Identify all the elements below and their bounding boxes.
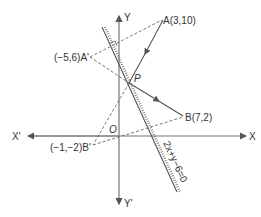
point-p-label: P	[134, 73, 141, 84]
y-neg-axis-label: Y'	[124, 198, 133, 209]
point-a-label: A(3,10)	[163, 15, 196, 26]
origin-label: O	[109, 124, 117, 135]
y-axis-label: Y	[124, 12, 131, 23]
mirror-line-equation: 2x+y−6=0	[161, 139, 190, 184]
reflection-diagram: Y Y' X X' O A(3,10) B(7,2) P (−5,6)A' (−…	[0, 0, 261, 217]
point-b-image-label: (−1,−2)B'	[50, 142, 91, 153]
x-axis-label: X	[249, 131, 256, 142]
point-a-image-label: (−5,6)A'	[54, 52, 89, 63]
x-neg-axis-label: X'	[12, 131, 21, 142]
point-b-label: B(7,2)	[185, 112, 212, 123]
light-ray	[129, 20, 183, 116]
